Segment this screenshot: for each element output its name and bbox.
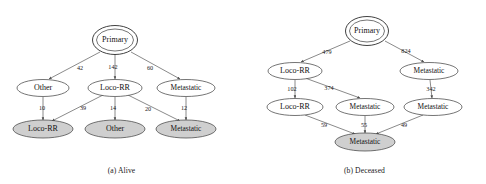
node-metastatic-leaf-deceased[interactable]: Metastatic [335, 133, 395, 151]
panel-alive: Primary Other Loco-RR Metastatic Loco-RR [0, 0, 243, 184]
node-locorr-mid-deceased[interactable]: Loco-RR [268, 63, 322, 80]
node-metastatic-mid-deceased[interactable]: Metastatic [400, 63, 458, 80]
node-metastatic-lower-center-deceased[interactable]: Metastatic [336, 99, 394, 116]
edge-label-20: 20 [145, 105, 151, 112]
caption-panel-b: (b) Deceased [243, 166, 486, 175]
edge-label-59: 59 [321, 121, 327, 128]
node-label-metastatic-lower-center-d: Metastatic [350, 102, 382, 111]
node-label-metastatic-leaf-d: Metastatic [350, 137, 382, 146]
node-label-metastatic-mid-d: Metastatic [414, 66, 446, 75]
edge-label-14: 14 [110, 104, 116, 111]
panel-deceased-graph: Primary Loco-RR Metastatic Loco-RR Metas… [243, 0, 486, 184]
edge-primary-other [49, 52, 100, 79]
node-label-locorr-mid: Loco-RR [100, 83, 130, 92]
node-locorr-lower-deceased[interactable]: Loco-RR [267, 99, 323, 116]
node-locorr-mid-alive[interactable]: Loco-RR [88, 80, 142, 97]
edge-label-479: 479 [322, 48, 331, 55]
node-primary-alive[interactable]: Primary [93, 26, 138, 55]
edges-group-deceased [295, 41, 432, 134]
node-label-locorr-lower-d: Loco-RR [280, 102, 310, 111]
panel-alive-graph: Primary Other Loco-RR Metastatic Loco-RR [0, 0, 243, 184]
caption-panel-a: (a) Alive [0, 166, 243, 175]
node-primary-deceased[interactable]: Primary [346, 17, 389, 46]
node-other-leaf-alive[interactable]: Other [85, 120, 145, 138]
edge-label-142: 142 [108, 63, 117, 70]
node-metastatic-leaf-alive[interactable]: Metastatic [156, 120, 216, 138]
edge-label-374: 374 [324, 84, 333, 91]
edge-label-60: 60 [147, 64, 153, 71]
node-label-other-mid: Other [34, 83, 53, 92]
edge-locorr-bottom-d [305, 115, 355, 134]
edge-label-42: 42 [77, 64, 83, 71]
node-label-metastatic-lower-right-d: Metastatic [418, 102, 450, 111]
edge-label-824: 824 [401, 47, 410, 54]
edge-label-55: 55 [361, 121, 367, 128]
node-label-other-leaf: Other [106, 124, 125, 133]
edge-label-102: 102 [287, 85, 296, 92]
panel-deceased: Primary Loco-RR Metastatic Loco-RR Metas… [243, 0, 486, 184]
edge-label-12: 12 [181, 104, 187, 111]
edge-labels-group-deceased: 479 824 102 374 342 59 55 49 [287, 47, 435, 128]
edge-locorr-locorr [52, 95, 103, 121]
figure-container: Primary Other Loco-RR Metastatic Loco-RR [0, 0, 486, 184]
node-label-locorr-mid-d: Loco-RR [280, 66, 310, 75]
edge-label-342: 342 [426, 85, 435, 92]
node-metastatic-mid-alive[interactable]: Metastatic [157, 80, 215, 97]
node-label-primary: Primary [102, 35, 128, 44]
node-other-mid-alive[interactable]: Other [17, 80, 69, 97]
node-locorr-leaf-alive[interactable]: Loco-RR [13, 120, 73, 138]
node-label-locorr-leaf: Loco-RR [28, 124, 58, 133]
node-metastatic-lower-right-deceased[interactable]: Metastatic [404, 99, 462, 116]
node-label-metastatic-leaf: Metastatic [171, 124, 203, 133]
edge-primary-metastatic [131, 52, 180, 79]
edge-label-39: 39 [80, 104, 86, 111]
edge-label-49: 49 [401, 121, 407, 128]
edge-locorr-metastatic [128, 95, 180, 121]
edge-label-10: 10 [39, 104, 45, 111]
node-label-primary-d: Primary [354, 26, 380, 35]
node-label-metastatic-mid: Metastatic [171, 83, 203, 92]
edge-metastatic-right-bottom-d [376, 115, 423, 134]
